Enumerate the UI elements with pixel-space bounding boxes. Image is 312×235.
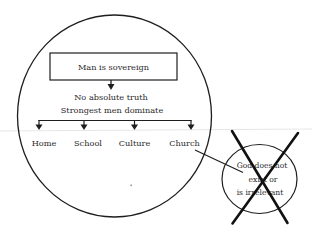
- god-text-line1: God does not: [237, 161, 288, 170]
- scan-speck: [131, 185, 132, 187]
- main-circle: [18, 15, 212, 217]
- worldview-diagram: Man is sovereign No absolute truth Stron…: [0, 0, 312, 235]
- scan-line: [0, 129, 312, 131]
- branch-label-school: School: [74, 138, 102, 148]
- strongest-men-text: Strongest men dominate: [61, 105, 164, 115]
- branch-label-culture: Culture: [119, 138, 151, 148]
- branch-label-home: Home: [32, 138, 57, 148]
- branch-connector: [36, 120, 195, 130]
- sovereign-box: Man is sovereign: [50, 53, 177, 80]
- branch-label-church: Church: [169, 138, 200, 148]
- god-text-line3: is irrelevant: [237, 188, 284, 197]
- sovereign-label: Man is sovereign: [78, 62, 150, 72]
- down-arrow-icon: [36, 125, 43, 131]
- down-arrow-icon: [108, 80, 115, 90]
- down-arrow-icon: [81, 125, 88, 131]
- down-arrow-icon: [131, 125, 138, 131]
- no-absolute-truth-text: No absolute truth: [74, 92, 148, 102]
